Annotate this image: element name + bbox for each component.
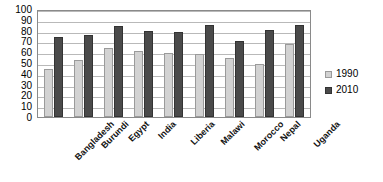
legend-swatch-1990-icon [325, 71, 332, 78]
bar-bangladesh-1990 [44, 69, 53, 117]
chart-legend: 1990 2010 [325, 66, 383, 98]
bar-egypt-2010 [114, 26, 123, 117]
y-axis-tick-label: 100 [15, 5, 32, 15]
y-axis-tick-label: 90 [21, 16, 32, 26]
bar-group [159, 11, 189, 117]
bar-burundi-2010 [84, 35, 93, 117]
y-axis-tick-label: 40 [21, 70, 32, 80]
plot-area [37, 10, 311, 118]
bar-egypt-1990 [104, 48, 113, 117]
bar-nepal-1990 [255, 64, 264, 117]
legend-item-2010: 2010 [325, 82, 383, 98]
bar-burundi-1990 [74, 60, 83, 117]
bar-groups [38, 11, 310, 117]
y-axis-tick-label: 0 [26, 113, 32, 123]
y-axis-tick-label: 20 [21, 91, 32, 101]
legend-item-1990: 1990 [325, 66, 383, 82]
y-axis-tick-label: 30 [21, 81, 32, 91]
legend-swatch-2010-icon [325, 87, 332, 94]
bar-group [189, 11, 219, 117]
y-axis: 1009080706050403020100 [0, 10, 34, 118]
bar-liberia-2010 [174, 32, 183, 117]
y-axis-tick-label: 80 [21, 27, 32, 37]
bar-group [38, 11, 68, 117]
bar-group [129, 11, 159, 117]
legend-label-2010: 2010 [336, 85, 358, 95]
bar-group [68, 11, 98, 117]
x-axis-label-liberia: Liberia [189, 119, 217, 147]
bar-india-2010 [144, 31, 153, 117]
bar-morocco-1990 [225, 58, 234, 117]
y-axis-tick-label: 50 [21, 59, 32, 69]
bar-nepal-2010 [265, 30, 274, 117]
bar-malawi-2010 [205, 25, 214, 117]
bar-malawi-1990 [195, 54, 204, 117]
bar-bangladesh-2010 [54, 37, 63, 117]
legend-label-1990: 1990 [336, 69, 358, 79]
y-axis-tick-label: 70 [21, 37, 32, 47]
bar-morocco-2010 [235, 41, 244, 117]
x-axis-label-egypt: Egypt [126, 119, 151, 144]
bar-uganda-2010 [295, 25, 304, 117]
bar-india-1990 [134, 51, 143, 117]
x-axis-label-malawi: Malawi [219, 119, 247, 147]
bar-uganda-1990 [285, 44, 294, 117]
y-axis-tick-label: 10 [21, 102, 32, 112]
bar-group [219, 11, 249, 117]
bar-group [250, 11, 280, 117]
y-axis-tick-label: 60 [21, 48, 32, 58]
bar-chart: 1009080706050403020100 BangladeshBurundi… [0, 0, 383, 182]
x-axis: BangladeshBurundiEgyptIndiaLiberiaMalawi… [37, 119, 311, 179]
bar-group [280, 11, 310, 117]
x-axis-label-uganda: Uganda [311, 119, 341, 149]
bar-liberia-1990 [164, 53, 173, 117]
bar-group [98, 11, 128, 117]
x-axis-label-india: India [156, 119, 178, 141]
